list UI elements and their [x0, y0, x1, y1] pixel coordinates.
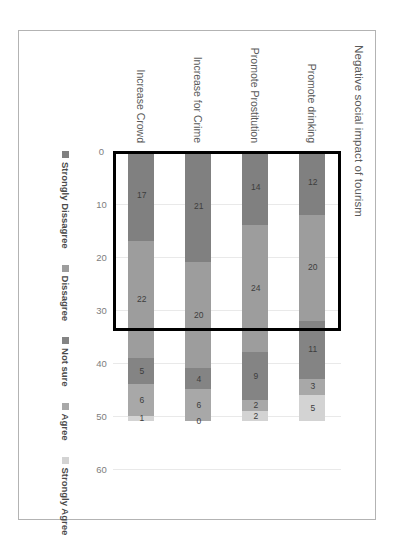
bar-value-label: 2: [253, 412, 258, 421]
bar-value-label: 5: [139, 367, 144, 376]
chart-canvas-rotated: Negative social impact of tourism Promot…: [19, 31, 375, 519]
legend-label: Strongly Agree: [61, 468, 72, 536]
category-axis: Promote drinkingPromote ProstitutionIncr…: [113, 31, 341, 149]
legend-label: Strongly Dissagree: [61, 162, 72, 249]
bar-value-label: 6: [139, 396, 144, 405]
legend-swatch-icon: [63, 457, 70, 464]
legend-item[interactable]: Not sure: [61, 337, 72, 387]
axis-tick-label: 10: [96, 199, 107, 210]
bar-row[interactable]: 1424922: [243, 151, 269, 469]
bar-value-label: 21: [194, 202, 203, 211]
axis-tick-label: 60: [96, 464, 107, 475]
bar-segment[interactable]: 17: [129, 151, 155, 241]
legend-item[interactable]: Dissagree: [61, 265, 72, 321]
bar-segment[interactable]: 2: [243, 411, 269, 422]
legend-swatch-icon: [63, 265, 70, 272]
legend-label: Dissagree: [61, 276, 72, 321]
bar-value-label: 4: [196, 375, 201, 384]
bar-value-label: 20: [194, 311, 203, 320]
chart-legend: Strongly DissagreeDissagreeNot sureAgree…: [53, 151, 79, 481]
category-label: Promote drinking: [307, 64, 319, 143]
plot-area: 12201135142492221204601722561: [113, 151, 341, 469]
bar-value-label: 17: [137, 192, 146, 201]
gridline: [113, 469, 341, 470]
bar-value-label: 14: [251, 184, 260, 193]
bar-value-label: 20: [308, 263, 317, 272]
bar-row[interactable]: 1722561: [129, 151, 155, 469]
bar-series-group: 12201135142492221204601722561: [113, 151, 341, 469]
bar-segment[interactable]: 21: [186, 151, 212, 262]
axis-tick-label: 50: [96, 411, 107, 422]
legend-swatch-icon: [63, 337, 70, 344]
category-label: Promote Prostitution: [250, 48, 262, 143]
bar-value-label: 22: [137, 295, 146, 304]
bar-value-label: 0: [196, 417, 201, 426]
axis-tick-label: 30: [96, 305, 107, 316]
bar-value-label: 3: [310, 383, 315, 392]
bar-segment[interactable]: 1: [129, 416, 155, 421]
legend-swatch-icon: [63, 151, 70, 158]
legend-swatch-icon: [63, 403, 70, 410]
bar-segment[interactable]: 2: [243, 400, 269, 411]
bar-value-label: 9: [253, 372, 258, 381]
bar-segment[interactable]: 20: [300, 215, 326, 321]
bar-segment[interactable]: 22: [129, 241, 155, 358]
bar-segment[interactable]: 5: [129, 358, 155, 385]
legend-item[interactable]: Strongly Dissagree: [61, 151, 72, 249]
category-label: Increase Crowd: [136, 69, 148, 143]
bar-value-label: 1: [139, 414, 144, 423]
chart-frame: Negative social impact of tourism Promot…: [18, 30, 376, 520]
legend-item[interactable]: Agree: [61, 403, 72, 441]
bar-row[interactable]: 2120460: [186, 151, 212, 469]
bar-row[interactable]: 12201135: [300, 151, 326, 469]
axis-tick-label: 0: [99, 146, 104, 157]
bar-value-label: 24: [251, 285, 260, 294]
legend-label: Agree: [61, 414, 72, 441]
bar-value-label: 6: [196, 401, 201, 410]
value-axis: 0102030405060: [85, 151, 111, 469]
bar-value-label: 12: [308, 179, 317, 188]
bar-segment[interactable]: 6: [129, 384, 155, 416]
bar-segment[interactable]: 5: [300, 395, 326, 422]
legend-label: Not sure: [61, 348, 72, 387]
bar-segment[interactable]: 4: [186, 368, 212, 389]
chart-title: Negative social impact of tourism: [353, 45, 365, 217]
axis-tick-label: 40: [96, 358, 107, 369]
bar-segment[interactable]: 3: [300, 379, 326, 395]
bar-segment[interactable]: 20: [186, 262, 212, 368]
bar-segment[interactable]: 11: [300, 321, 326, 379]
category-label: Increase for Crime: [193, 57, 205, 143]
axis-tick-label: 20: [96, 252, 107, 263]
bar-segment[interactable]: 24: [243, 225, 269, 352]
bar-value-label: 2: [253, 401, 258, 410]
bar-value-label: 11: [308, 345, 317, 354]
bar-segment[interactable]: 14: [243, 151, 269, 225]
bar-segment[interactable]: 12: [300, 151, 326, 215]
bar-value-label: 5: [310, 404, 315, 413]
bar-segment[interactable]: 9: [243, 352, 269, 400]
legend-item[interactable]: Strongly Agree: [61, 457, 72, 536]
